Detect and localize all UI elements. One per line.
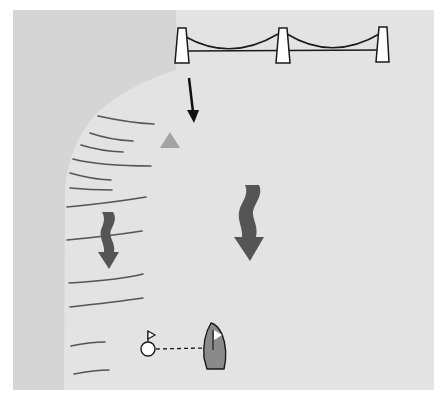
bridge-tower-middle <box>276 28 290 63</box>
buoy-circle <box>141 342 155 356</box>
bridge-tower-right <box>376 27 389 62</box>
bridge-tower-left <box>175 28 189 63</box>
sailing-diagram <box>0 0 446 400</box>
